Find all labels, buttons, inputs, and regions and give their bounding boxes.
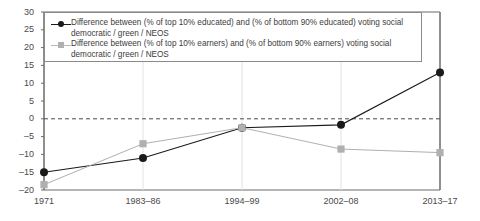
data-point-marker [436,149,443,156]
legend-label-educated: Difference between (% of top 10% educate… [71,18,419,39]
x-axis-tick-label: 1971 [9,197,79,206]
legend-label-earners: Difference between (% of top 10% earners… [71,39,419,60]
data-point-marker [337,121,345,129]
data-point-marker [337,145,344,152]
y-axis-tick-label: 15 [8,61,34,70]
legend-marker-educated-icon [51,19,71,29]
data-point-marker [238,124,245,131]
data-point-marker [139,140,146,147]
y-axis-tick-label: 0 [8,114,34,123]
x-axis-tick-label: 2002–08 [306,197,376,206]
chart-legend: Difference between (% of top 10% educate… [44,12,422,62]
data-point-marker [40,181,47,188]
y-axis-tick-label: 10 [8,79,34,88]
y-axis-tick-label: 30 [8,8,34,17]
y-axis-tick-label: 20 [8,43,34,52]
data-point-marker [436,69,444,77]
y-axis-tick-label: 25 [8,25,34,34]
data-point-marker [139,154,147,162]
legend-entry-educated: Difference between (% of top 10% educate… [51,18,419,39]
data-point-marker [40,168,48,176]
legend-entry-earners: Difference between (% of top 10% earners… [51,39,419,60]
y-axis-tick-label: –5 [8,132,34,141]
y-axis-tick-label: –10 [8,150,34,159]
x-axis-tick-label: 1994–99 [207,197,277,206]
chart-figure: 302520151050–5–10–15–20 19711983–861994–… [0,0,480,221]
y-axis-tick-label: 5 [8,97,34,106]
y-axis-tick-label: –15 [8,168,34,177]
x-axis-tick-label: 2013–17 [405,197,475,206]
x-axis-tick-label: 1983–86 [108,197,178,206]
legend-marker-earners-icon [51,40,71,50]
y-axis-tick-label: –20 [8,186,34,195]
